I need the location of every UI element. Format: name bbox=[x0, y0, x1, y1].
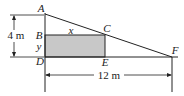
triangle-rectangle-diagram: A B y D x C E F 4 m 12 m bbox=[0, 0, 184, 96]
label-y: y bbox=[36, 40, 42, 52]
inscribed-rectangle bbox=[45, 35, 105, 57]
label-A: A bbox=[37, 2, 45, 14]
arrow-right-icon bbox=[167, 73, 172, 77]
label-x: x bbox=[68, 24, 74, 36]
label-E: E bbox=[101, 56, 109, 68]
arrow-down-icon bbox=[12, 52, 16, 57]
label-F: F bbox=[171, 44, 179, 56]
label-C: C bbox=[103, 22, 111, 34]
arrow-left-icon bbox=[45, 73, 50, 77]
dimension-base: 12 m bbox=[98, 69, 121, 81]
label-D: D bbox=[35, 55, 44, 67]
arrow-up-icon bbox=[12, 15, 16, 20]
dimension-height: 4 m bbox=[8, 29, 25, 41]
